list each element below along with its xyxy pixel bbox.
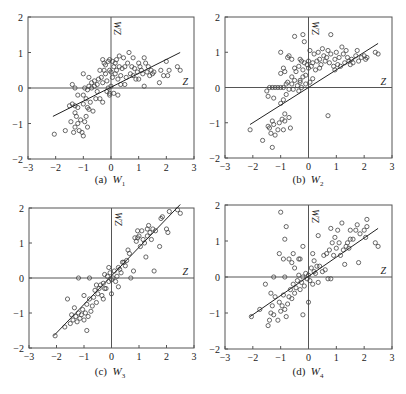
data-point xyxy=(145,234,149,238)
data-point xyxy=(109,278,113,282)
data-point xyxy=(118,267,122,271)
data-point xyxy=(263,282,267,286)
data-point xyxy=(273,295,277,299)
data-point xyxy=(141,237,145,241)
data-point xyxy=(149,237,153,241)
data-point xyxy=(144,255,148,259)
data-point xyxy=(318,57,322,61)
x-axis-label: Z xyxy=(182,76,188,87)
caption-d: (d) W4 xyxy=(268,365,348,380)
data-point xyxy=(73,111,77,115)
data-point xyxy=(70,82,74,86)
x-tick-label: −3 xyxy=(23,162,34,173)
data-point xyxy=(305,63,309,67)
y-tick-label: −1 xyxy=(209,118,220,129)
caption-sub: 1 xyxy=(122,180,126,188)
data-point xyxy=(69,120,73,124)
data-points xyxy=(248,33,380,150)
data-point xyxy=(146,65,150,69)
data-point xyxy=(148,74,152,78)
data-point xyxy=(119,82,123,86)
data-point xyxy=(81,307,85,311)
data-point xyxy=(293,291,297,295)
data-point xyxy=(323,268,327,272)
x-tick-label: 1 xyxy=(137,351,142,362)
data-point xyxy=(279,210,283,214)
data-point xyxy=(248,128,252,132)
data-point xyxy=(295,279,299,283)
data-point xyxy=(111,276,115,280)
data-point xyxy=(284,315,288,319)
data-point xyxy=(347,246,351,250)
data-point xyxy=(302,61,306,65)
data-point xyxy=(316,50,320,54)
data-point xyxy=(92,84,96,88)
data-point xyxy=(365,217,369,221)
data-point xyxy=(297,64,301,68)
data-point xyxy=(105,89,109,93)
data-point xyxy=(76,105,80,109)
x-tick-label: 3 xyxy=(390,161,395,172)
data-point xyxy=(312,270,316,274)
data-point xyxy=(306,273,310,277)
data-point xyxy=(114,68,118,72)
data-point xyxy=(72,130,76,134)
data-point xyxy=(280,117,284,121)
plot-frame xyxy=(225,205,392,349)
data-point xyxy=(83,311,87,315)
data-point xyxy=(89,309,93,313)
data-point xyxy=(128,72,132,76)
x-tick-label: −2 xyxy=(51,351,62,362)
x-tick-label: 2 xyxy=(362,352,367,363)
data-point xyxy=(298,257,302,261)
data-point xyxy=(85,105,89,109)
data-point xyxy=(281,128,285,132)
data-point xyxy=(311,77,315,81)
data-point xyxy=(293,266,297,270)
data-point xyxy=(132,66,136,70)
data-point xyxy=(101,100,105,104)
data-point xyxy=(287,295,291,299)
data-point xyxy=(337,241,341,245)
data-point xyxy=(120,260,124,264)
data-point xyxy=(306,59,310,63)
data-point xyxy=(283,275,287,279)
data-point xyxy=(142,241,146,245)
data-point xyxy=(286,80,290,84)
data-point xyxy=(276,128,280,132)
data-point xyxy=(102,68,106,72)
data-point xyxy=(87,297,91,301)
data-point xyxy=(108,91,112,95)
data-point xyxy=(164,227,168,231)
data-point xyxy=(150,72,154,76)
data-point xyxy=(162,74,166,78)
y-tick-label: 1 xyxy=(19,238,24,249)
data-point xyxy=(272,122,276,126)
data-point xyxy=(281,85,285,89)
data-point xyxy=(362,54,366,58)
data-point xyxy=(175,65,179,69)
y-tick-label: 0 xyxy=(19,273,24,284)
data-point xyxy=(283,307,287,311)
data-point xyxy=(131,74,135,78)
data-point xyxy=(323,59,327,63)
data-point xyxy=(308,48,312,52)
data-point xyxy=(160,215,164,219)
data-point xyxy=(113,72,117,76)
data-point xyxy=(297,273,301,277)
data-points xyxy=(52,50,182,138)
x-tick-label: −1 xyxy=(79,351,90,362)
data-point xyxy=(106,59,110,63)
caption-prefix: (b) xyxy=(293,173,306,185)
regression-line xyxy=(54,205,181,336)
data-point xyxy=(87,84,91,88)
data-point xyxy=(302,40,306,44)
data-point xyxy=(123,82,127,86)
data-point xyxy=(82,318,86,322)
caption-sub: 4 xyxy=(320,372,324,380)
x-tick-label: 3 xyxy=(390,352,395,363)
data-point xyxy=(109,84,113,88)
x-axis-label: Z xyxy=(380,265,386,276)
data-point xyxy=(354,54,358,58)
data-point xyxy=(67,104,71,108)
